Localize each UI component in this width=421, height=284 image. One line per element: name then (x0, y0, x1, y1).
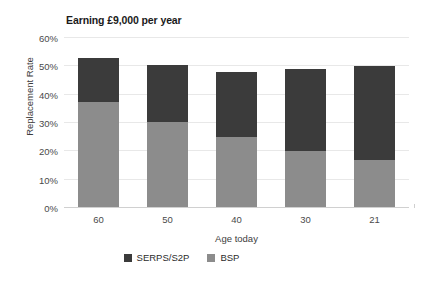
x-axis-line (64, 207, 409, 208)
bar-segment-serps-s2p[interactable] (354, 66, 395, 160)
legend-item-bsp[interactable]: BSP (207, 252, 239, 263)
stacked-bar-chart: Earning £9,000 per year Replacement Rate… (0, 0, 421, 284)
plot-area: 0%10%20%30%40%50%60% 6050403021 (64, 38, 409, 208)
x-axis-tick-label: 50 (162, 214, 173, 225)
y-axis-tick-label: 40% (39, 89, 58, 100)
legend-label: SERPS/S2P (137, 252, 190, 263)
bar-segment-bsp[interactable] (354, 160, 395, 208)
bar-stack-21[interactable] (354, 66, 395, 208)
bar-stack-50[interactable] (147, 65, 188, 208)
bar-segment-bsp[interactable] (147, 122, 188, 208)
y-axis-tick-label: 0% (44, 203, 58, 214)
legend-swatch-icon (207, 254, 215, 262)
bar-segment-serps-s2p[interactable] (78, 58, 119, 102)
chart-legend: SERPS/S2PBSP (64, 252, 409, 263)
legend-swatch-icon (124, 254, 132, 262)
bar-segment-serps-s2p[interactable] (285, 69, 326, 151)
legend-label: BSP (220, 252, 239, 263)
x-axis-title: Age today (64, 233, 409, 244)
y-axis-title: Replacement Rate (24, 37, 35, 157)
bar-segment-bsp[interactable] (285, 151, 326, 208)
bar-segment-bsp[interactable] (216, 137, 257, 208)
x-axis-tick-label: 40 (231, 214, 242, 225)
bar-segment-serps-s2p[interactable] (147, 65, 188, 122)
y-axis-tick-label: 10% (39, 174, 58, 185)
bar-segment-bsp[interactable] (78, 102, 119, 208)
x-axis-tick-label: 60 (93, 214, 104, 225)
y-axis-tick-label: 30% (39, 118, 58, 129)
chart-title: Earning £9,000 per year (66, 14, 182, 26)
y-axis-tick-label: 50% (39, 61, 58, 72)
x-axis-end-tick (414, 204, 415, 208)
legend-item-serps-s2p[interactable]: SERPS/S2P (124, 252, 190, 263)
gridline (64, 37, 409, 38)
x-axis-tick-label: 21 (369, 214, 380, 225)
bar-segment-serps-s2p[interactable] (216, 72, 257, 137)
x-axis-tick-label: 30 (300, 214, 311, 225)
bar-stack-40[interactable] (216, 72, 257, 208)
y-axis-tick-label: 20% (39, 146, 58, 157)
y-axis-tick-label: 60% (39, 33, 58, 44)
bar-stack-30[interactable] (285, 69, 326, 208)
bar-stack-60[interactable] (78, 58, 119, 208)
